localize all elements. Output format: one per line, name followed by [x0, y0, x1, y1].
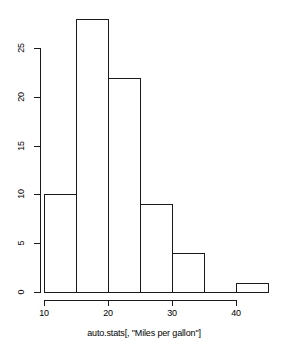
y-tick-label-0-text: 0: [17, 290, 26, 295]
y-tick-label-5: 5: [12, 238, 30, 248]
x-tick-20: [108, 300, 109, 306]
y-tick-25: [34, 48, 40, 49]
y-tick-label-25-text: 25: [17, 43, 26, 53]
y-tick-label-5-text: 5: [17, 241, 26, 246]
x-tick-label-40: 40: [221, 308, 251, 318]
histogram-bar-25-30: [140, 204, 173, 293]
x-tick-label-30: 30: [157, 308, 187, 318]
y-axis-line: [40, 48, 41, 293]
y-tick-15: [34, 146, 40, 147]
y-tick-label-15: 15: [12, 141, 30, 151]
y-tick-label-15-text: 15: [17, 141, 26, 151]
y-tick-10: [34, 194, 40, 195]
x-axis-line: [44, 300, 237, 301]
histogram-bar-30-35: [172, 253, 205, 293]
y-tick-label-0: 0: [12, 287, 30, 297]
histogram-bar-10-15: [44, 194, 77, 293]
y-tick-20: [34, 97, 40, 98]
x-tick-label-10: 10: [29, 308, 59, 318]
y-tick-label-20: 20: [12, 92, 30, 102]
y-tick-label-10: 10: [12, 189, 30, 199]
y-tick-label-25: 25: [12, 43, 30, 53]
x-axis-title: auto.stats[, "Miles per gallon"]: [0, 328, 288, 339]
y-tick-0: [34, 292, 40, 293]
x-tick-30: [172, 300, 173, 306]
histogram-bar-20-25: [108, 78, 141, 293]
histogram-figure: 0 5 10 15 20 25 10 20 30 40 auto.stats[,…: [0, 0, 288, 355]
histogram-bar-15-20: [76, 19, 109, 293]
x-tick-10: [44, 300, 45, 306]
y-tick-5: [34, 243, 40, 244]
y-tick-label-10-text: 10: [17, 189, 26, 199]
histogram-baseline: [44, 292, 269, 293]
x-tick-40: [236, 300, 237, 306]
x-tick-label-20: 20: [93, 308, 123, 318]
y-tick-label-20-text: 20: [17, 92, 26, 102]
